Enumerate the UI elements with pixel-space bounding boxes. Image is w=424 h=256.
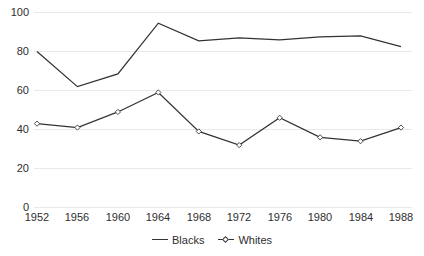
x-tick-label-1952: 1952 xyxy=(25,211,49,223)
legend-entry-whites: Whites xyxy=(218,234,272,246)
y-tick-label-40: 40 xyxy=(17,123,29,135)
series-data-point xyxy=(34,121,39,126)
series-blacks xyxy=(37,23,401,86)
chart-legend: Blacks Whites xyxy=(0,232,424,248)
chart-figure: 100 80 60 40 20 0 1952 1956 1960 1964 19… xyxy=(0,0,424,256)
series-blacks-line xyxy=(37,23,401,86)
legend-line-swatch-icon xyxy=(152,235,168,245)
line-chart-plot: 100 80 60 40 20 0 1952 1956 1960 1964 19… xyxy=(0,0,424,256)
legend-label-whites: Whites xyxy=(238,234,272,246)
x-tick-label-1960: 1960 xyxy=(106,211,130,223)
gridlines xyxy=(34,13,412,208)
x-tick-label-1956: 1956 xyxy=(65,211,89,223)
series-data-point xyxy=(358,139,363,144)
series-whites-markers xyxy=(34,90,403,148)
x-tick-label-1972: 1972 xyxy=(227,211,251,223)
y-tick-label-60: 60 xyxy=(17,84,29,96)
series-data-point xyxy=(115,109,120,114)
series-whites xyxy=(34,90,403,148)
x-tick-label-1964: 1964 xyxy=(146,211,170,223)
y-axis-tick-labels: 100 80 60 40 20 0 xyxy=(11,6,29,213)
y-tick-label-80: 80 xyxy=(17,45,29,57)
y-tick-label-100: 100 xyxy=(11,6,29,18)
figure-caption-strip xyxy=(0,249,424,256)
x-tick-label-1968: 1968 xyxy=(187,211,211,223)
legend-entry-blacks: Blacks xyxy=(152,234,204,246)
series-whites-line xyxy=(37,92,401,145)
x-tick-label-1976: 1976 xyxy=(268,211,292,223)
x-tick-label-1988: 1988 xyxy=(389,211,413,223)
series-data-point xyxy=(318,135,323,140)
legend-diamond-marker-icon xyxy=(218,235,234,245)
x-axis-tick-labels: 1952 1956 1960 1964 1968 1972 1976 1980 … xyxy=(25,211,413,223)
x-tick-label-1984: 1984 xyxy=(349,211,373,223)
legend-label-blacks: Blacks xyxy=(172,234,204,246)
y-tick-label-20: 20 xyxy=(17,162,29,174)
x-tick-label-1980: 1980 xyxy=(308,211,332,223)
